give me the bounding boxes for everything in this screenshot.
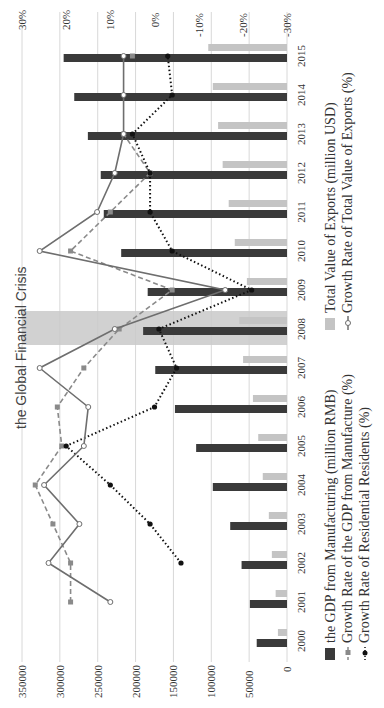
open-circle-marker [37, 249, 42, 254]
year-label: 2012 [295, 162, 307, 184]
gdp-bar [88, 132, 287, 140]
legend: the GDP from Manufacturing (million RMB)… [323, 72, 373, 660]
dot-marker [108, 482, 113, 487]
axis-ticks: 0500001000001500002000002500003000003500… [16, 10, 293, 698]
left-axis-tick: 0 [281, 666, 293, 672]
exports-bar [276, 590, 287, 597]
square-marker [50, 522, 55, 527]
square-marker [68, 561, 73, 566]
year-label: 2004 [295, 474, 307, 497]
year-label: 2007 [295, 357, 307, 380]
open-circle-marker [121, 132, 126, 137]
exports-bar [253, 395, 287, 402]
square-marker [55, 405, 60, 410]
gdp-bar [101, 171, 287, 179]
year-label: 2009 [295, 279, 307, 302]
open-circle-marker [81, 444, 86, 449]
legend-swatch-icon [325, 318, 335, 330]
gdp-bar [175, 405, 287, 413]
right-axis-tick: -10% [193, 13, 205, 37]
left-axis-tick: 250000 [92, 665, 104, 699]
dot-marker [64, 443, 69, 448]
gdp-bar [143, 327, 287, 335]
year-label: 2006 [295, 396, 307, 419]
open-circle-marker [42, 483, 47, 488]
open-circle-marker [112, 327, 117, 332]
gdp-bar [121, 249, 287, 257]
dot-marker [165, 53, 170, 58]
square-marker [33, 483, 38, 488]
right-axis-tick: 20% [60, 10, 72, 30]
exports-bar [229, 200, 287, 207]
left-axis-tick: 50000 [243, 670, 255, 698]
year-label: 2011 [295, 201, 307, 223]
right-axis-tick: 10% [104, 10, 116, 30]
exports-bar [278, 629, 287, 636]
square-marker [81, 366, 86, 371]
series-line [35, 134, 172, 602]
open-circle-marker [95, 210, 100, 215]
dot-marker [152, 404, 157, 409]
gdp-bar [104, 210, 287, 218]
legend-item: Growth Rate of Residential Residents (%) [357, 407, 373, 660]
left-axis-tick: 200000 [130, 665, 142, 699]
dot-marker [174, 365, 179, 370]
legend-item: Growth Rate of the GDP from Manufacture … [340, 374, 356, 660]
dot-marker [147, 170, 152, 175]
legend-item: Growth Rate of Total Value of Exports (%… [340, 72, 356, 330]
square-marker [68, 600, 73, 605]
right-axis-tick: -20% [237, 13, 249, 37]
legend-label: Total Value of Exports (million USD) [323, 102, 339, 313]
exports-bar [272, 551, 287, 558]
right-axis-tick: 30% [16, 10, 28, 30]
gdp-bar [196, 444, 287, 452]
dot-marker [147, 209, 152, 214]
dot-marker [130, 131, 135, 136]
rotated-combo-chart: 0500001000001500002000002500003000003500… [0, 0, 384, 708]
open-circle-marker [108, 600, 113, 605]
left-axis-tick: 300000 [54, 665, 66, 699]
gdp-bar [257, 639, 287, 647]
gdp-bar [213, 483, 287, 491]
legend-item: the GDP from Manufacturing (million RMB) [323, 389, 339, 660]
exports-bar [218, 122, 287, 129]
exports-bar [247, 278, 287, 285]
year-label: 2001 [295, 591, 307, 613]
open-circle-marker [121, 54, 126, 59]
gdp-bar [64, 54, 287, 62]
dot-marker [156, 326, 161, 331]
exports-bar [239, 317, 287, 324]
left-axis-tick: 350000 [16, 665, 28, 699]
square-marker [170, 288, 175, 293]
legend-swatch-icon [325, 648, 335, 660]
left-axis-tick: 150000 [167, 665, 179, 699]
dot-marker [170, 248, 175, 253]
gdp-bar [74, 93, 287, 101]
open-circle-marker [46, 561, 51, 566]
crisis-label: the Global Financial Crisis [13, 266, 29, 429]
exports-bar [269, 512, 287, 519]
square-marker [59, 444, 64, 449]
open-circle-marker [37, 366, 42, 371]
year-label: 2010 [295, 240, 307, 263]
left-axis-tick: 100000 [205, 665, 217, 699]
open-circle-marker [112, 171, 117, 176]
right-axis-tick: -30% [281, 13, 293, 37]
exports-bar [258, 434, 287, 441]
year-label: 2014 [295, 84, 307, 107]
open-circle-marker [223, 288, 228, 293]
gdp-bar [250, 600, 287, 608]
open-circle-marker [77, 522, 82, 527]
right-axis-tick: 0% [149, 13, 161, 28]
dot-marker [147, 521, 152, 526]
dot-marker [249, 287, 254, 292]
legend-label: the GDP from Manufacturing (million RMB) [323, 389, 339, 643]
year-labels: 2000200120022003200420052006200720082009… [295, 45, 307, 653]
open-circle-marker [121, 93, 126, 98]
year-label: 2003 [295, 513, 307, 536]
dot-marker [178, 560, 183, 565]
legend-item: Total Value of Exports (million USD) [323, 102, 339, 330]
legend-label: Growth Rate of Residential Residents (%) [357, 407, 373, 643]
exports-bar [213, 83, 287, 90]
year-label: 2008 [295, 318, 307, 341]
